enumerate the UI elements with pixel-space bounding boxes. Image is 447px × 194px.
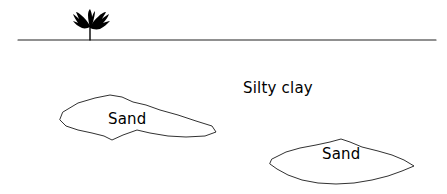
label-sand-left: Sand (108, 110, 147, 128)
plant-shrub-icon (73, 9, 110, 40)
label-silty-clay: Silty clay (243, 79, 313, 97)
label-sand-right: Sand (322, 145, 361, 163)
soil-cross-section-figure: Silty clay Sand Sand (0, 0, 447, 194)
sand-lens-left: Sand (60, 95, 216, 140)
cross-section-canvas: Silty clay Sand Sand (0, 0, 447, 194)
sand-lens-right: Sand (270, 139, 414, 184)
